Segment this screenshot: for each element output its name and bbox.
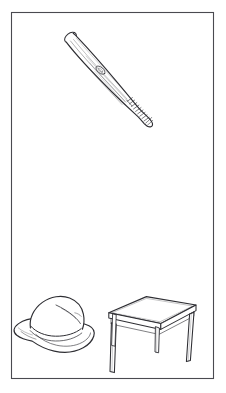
line-art-drawing	[0, 0, 226, 393]
table-leg-back-left	[112, 314, 117, 346]
illustration-canvas: Line drawing of three objects baseball b…	[0, 0, 226, 393]
table-leg-back-right	[155, 327, 159, 353]
